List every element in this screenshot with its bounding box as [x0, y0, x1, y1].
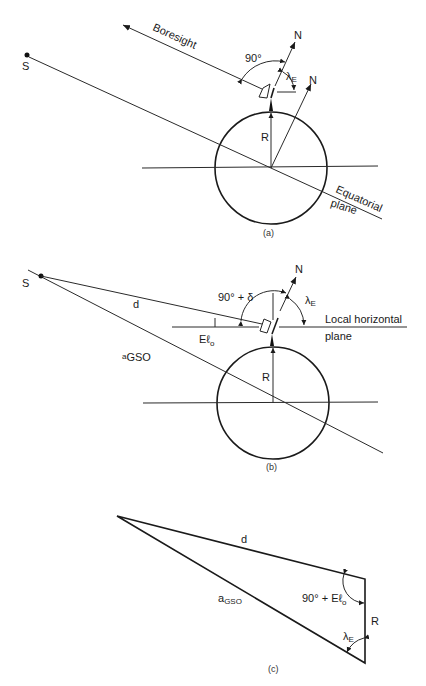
lambda-arc-b — [290, 299, 304, 325]
elevation-label-b: Eℓo — [199, 333, 215, 348]
north-label-local: N — [294, 29, 302, 41]
caption-a: (a) — [263, 228, 274, 238]
agso-line — [28, 270, 383, 453]
agso-label-c: aGSO — [218, 592, 242, 606]
angle-90-label: 90° — [245, 52, 262, 64]
antenna-post-b — [270, 334, 274, 346]
antenna-dish-b — [260, 319, 271, 333]
lambda-label-b: λE — [305, 294, 316, 308]
north-label-b: N — [295, 263, 303, 275]
distance-label-b: d — [133, 298, 139, 310]
panel-b: S d 90° + δ N λE Eℓo Local horizontal pl… — [22, 263, 407, 472]
local-horizontal-label: Local horizontal — [325, 313, 402, 325]
angle-90-el-label: 90° + Eℓo — [302, 592, 347, 607]
distance-label-c: d — [241, 533, 247, 545]
radius-label-a: R — [261, 131, 269, 143]
horizontal-line-a — [142, 166, 378, 168]
antenna-post-a — [269, 98, 273, 111]
satellite-label-b: S — [22, 277, 29, 289]
angle-90-delta-label: 90° + δ — [218, 291, 253, 303]
satellite-label-a: S — [22, 60, 29, 72]
north-axis-center — [271, 84, 311, 168]
boresight-line — [123, 25, 262, 89]
geometry-diagram: S Boresight 90° N N λE R Equatorial plan… — [0, 0, 426, 686]
satellite-point-a — [25, 53, 30, 58]
north-label-center: N — [309, 74, 317, 86]
radius-label-c: R — [371, 615, 379, 627]
boresight-label: Boresight — [151, 21, 198, 51]
radius-label-b: R — [262, 371, 270, 383]
caption-c: (c) — [268, 664, 279, 674]
caption-b: (b) — [266, 462, 277, 472]
lambda-label-a: λE — [286, 70, 297, 84]
horizontal-line-b — [143, 402, 378, 403]
lambda-label-c: λE — [343, 630, 354, 644]
agso-label-b: aGSO — [122, 351, 151, 363]
plane-label-b: plane — [325, 330, 352, 342]
antenna-dish-a — [259, 84, 270, 98]
equatorial-plane-line — [29, 57, 382, 219]
north-axis-b — [280, 277, 296, 311]
panel-c: d aGSO 90° + Eℓo R λE (c) — [117, 516, 379, 674]
panel-a: S Boresight 90° N N λE R Equatorial plan… — [22, 21, 384, 238]
